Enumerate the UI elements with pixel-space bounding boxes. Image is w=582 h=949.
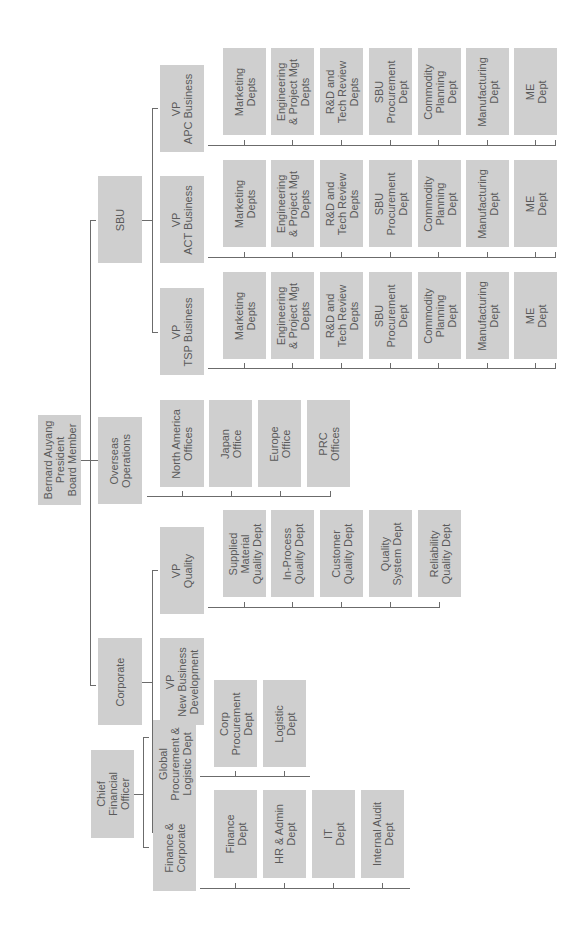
node-north-america-offices: North America Offices — [160, 400, 204, 487]
node-label: Engineering & Project Mgt Depts — [275, 282, 311, 348]
node-tsp-manufacturing: Manufacturing Dept — [466, 272, 509, 359]
tick — [280, 491, 281, 496]
global-proc-depts-line — [200, 776, 310, 777]
tick — [341, 252, 342, 257]
node-label: Manufacturing Dept — [476, 169, 500, 239]
node-label: IT Dept — [322, 822, 346, 845]
node-hr-admin: HR & Admin Dept — [263, 790, 306, 878]
sbu-bracket — [152, 108, 153, 333]
node-label: Manufacturing Dept — [476, 57, 500, 127]
node-label: Engineering & Project Mgt Depts — [275, 170, 311, 236]
node-label: VP TSP Business — [170, 297, 194, 366]
node-cfo: Chief Financial Officer — [91, 750, 134, 838]
trunk-stub-sbu — [90, 220, 96, 221]
tick — [390, 252, 391, 257]
node-sbu: SBU — [98, 176, 142, 263]
node-corporate: Corporate — [98, 638, 142, 725]
tick — [390, 602, 391, 607]
sbu-bracket-top — [152, 108, 158, 109]
tick — [438, 363, 439, 368]
node-label: VP Quality — [170, 553, 194, 587]
tick — [244, 602, 245, 607]
tick — [244, 252, 245, 257]
tick — [330, 491, 331, 496]
tick — [244, 140, 245, 145]
node-label: Commodity Planning Dept — [422, 288, 458, 344]
node-label: Engineering & Project Mgt Depts — [275, 58, 311, 124]
node-japan-office: Japan Office — [209, 400, 252, 487]
act-depts-line — [208, 257, 556, 258]
overseas-offices-line — [147, 496, 331, 497]
cfo-bracket-top — [143, 737, 149, 738]
tick — [487, 140, 488, 145]
node-label: PRC Offices — [317, 426, 341, 460]
node-label: Marketing Depts — [233, 67, 257, 115]
tick — [292, 363, 293, 368]
node-apc-rnd: R&D and Tech Review Depts — [320, 48, 363, 135]
node-vp-apc: VP APC Business — [160, 65, 204, 152]
node-supplied-material-quality: Supplied Material Quality Dept — [223, 510, 266, 597]
node-label: Finance & Corporate — [163, 823, 187, 873]
sbu-connector — [142, 220, 152, 221]
node-apc-marketing: Marketing Depts — [223, 48, 266, 135]
tick — [341, 140, 342, 145]
node-label: SBU Procurement Dept — [373, 60, 409, 123]
tick — [438, 140, 439, 145]
node-tsp-engineering: Engineering & Project Mgt Depts — [271, 272, 314, 359]
node-label: Chief Financial Officer — [95, 772, 131, 816]
node-corp-procurement: Corp Procurement Dept — [214, 680, 257, 767]
tick — [292, 252, 293, 257]
node-finance: Finance Dept — [214, 790, 257, 878]
tsp-depts-line — [208, 368, 556, 369]
tick — [231, 491, 232, 496]
tick — [235, 771, 236, 776]
cfo-bracket — [143, 737, 144, 848]
node-act-me: ME Dept — [514, 160, 557, 247]
node-vp-new-business-development: VP New Business Development — [160, 638, 204, 725]
node-label: Corp Procurement Dept — [218, 692, 254, 755]
node-label: R&D and Tech Review Depts — [324, 284, 360, 346]
node-label: VP New Business Development — [164, 647, 200, 717]
node-label: VP ACT Business — [170, 185, 194, 255]
node-label: SBU — [114, 208, 126, 231]
node-label: ME Dept — [524, 192, 548, 215]
cfo-bracket-bottom — [143, 847, 149, 848]
node-act-procurement: SBU Procurement Dept — [369, 160, 412, 247]
node-label: Overseas Operations — [108, 434, 132, 488]
tick — [182, 491, 183, 496]
node-quality-system: Quality System Dept — [369, 510, 412, 597]
tick — [487, 363, 488, 368]
node-act-rnd: R&D and Tech Review Depts — [320, 160, 363, 247]
tick — [535, 363, 536, 368]
tick — [341, 602, 342, 607]
node-prc-offices: PRC Offices — [307, 400, 350, 487]
node-label: ME Dept — [524, 80, 548, 103]
node-in-process-quality: In-Process Quality Dept — [271, 510, 314, 597]
node-apc-engineering: Engineering & Project Mgt Depts — [271, 48, 314, 135]
tick — [284, 883, 285, 888]
node-label: VP APC Business — [170, 73, 194, 143]
node-overseas-operations: Overseas Operations — [98, 417, 142, 504]
node-apc-me: ME Dept — [514, 48, 557, 135]
tick — [235, 883, 236, 888]
tick — [535, 252, 536, 257]
node-customer-quality: Customer Quality Dept — [320, 510, 363, 597]
apc-depts-line — [208, 145, 556, 146]
node-label: Global Procurement & Logistic Dept — [157, 727, 193, 800]
node-global-procurement: Global Procurement & Logistic Dept — [153, 720, 196, 807]
tick — [439, 602, 440, 607]
node-finance-corporate: Finance & Corporate — [153, 804, 196, 891]
node-label: R&D and Tech Review Depts — [324, 60, 360, 122]
trunk-stub-corporate — [90, 685, 96, 686]
node-label: SBU Procurement Dept — [373, 172, 409, 235]
fin-corp-depts-line — [200, 888, 410, 889]
node-label: Internal Audit Dept — [371, 802, 395, 866]
node-label: Customer Quality Dept — [330, 523, 354, 584]
tick — [333, 883, 334, 888]
node-label: Reliability Quality Dept — [428, 523, 452, 584]
trunk-line — [90, 220, 91, 686]
root-connector — [80, 460, 90, 461]
node-act-manufacturing: Manufacturing Dept — [466, 160, 509, 247]
tick — [390, 140, 391, 145]
tick — [555, 140, 556, 145]
